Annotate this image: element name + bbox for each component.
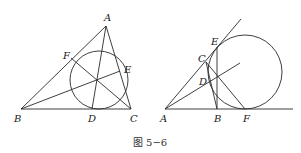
label-b: B xyxy=(213,113,221,124)
excircle xyxy=(208,35,282,109)
geometry-figure: A B C D E F A B C D E F 图 5−6 xyxy=(0,0,301,153)
label-f: F xyxy=(62,50,71,61)
label-c: C xyxy=(130,113,138,124)
label-e: E xyxy=(210,36,219,47)
label-c: C xyxy=(198,53,206,64)
label-b: B xyxy=(13,113,21,124)
cevian-ad xyxy=(92,26,106,109)
label-f: F xyxy=(242,113,251,124)
label-e: E xyxy=(123,64,132,75)
label-d: D xyxy=(198,76,207,87)
triangle-abc xyxy=(21,26,131,109)
figure-caption: 图 5−6 xyxy=(133,137,167,148)
label-a: A xyxy=(103,12,111,23)
right-diagram: A B C D E F xyxy=(159,19,293,124)
upper-tangent-line xyxy=(165,19,241,109)
label-d: D xyxy=(87,113,96,124)
left-diagram: A B C D E F xyxy=(13,12,138,124)
incircle xyxy=(70,51,128,109)
label-a: A xyxy=(159,113,167,124)
